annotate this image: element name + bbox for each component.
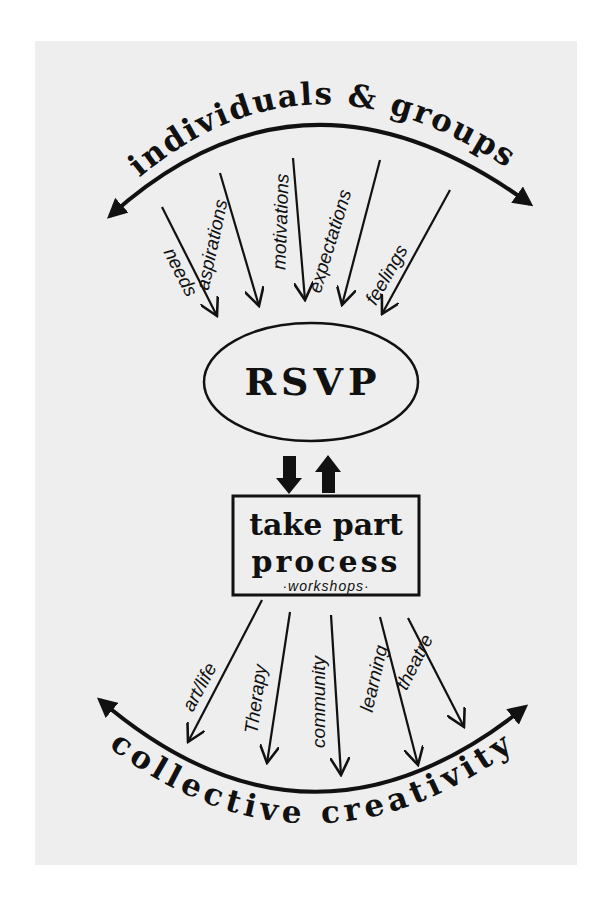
- process-box-line2: process: [252, 544, 401, 579]
- link-arrows: [276, 455, 341, 494]
- output-arrow-theatre: theatre: [391, 618, 464, 727]
- top-arc-label: individuals & groups: [121, 75, 524, 183]
- diagram-canvas: individuals & groups needsaspirationsmot…: [0, 0, 589, 902]
- process-box: take part process ·workshops·: [233, 496, 419, 595]
- input-arrow-aspirations: aspirations: [192, 173, 259, 306]
- arrow-icon: [267, 612, 290, 763]
- arrow-icon: [380, 617, 418, 765]
- up-arrow-icon: [315, 455, 341, 493]
- output-arrow-label: art/life: [178, 659, 221, 715]
- input-arrow-motivations: motivations: [268, 158, 305, 300]
- process-box-line3: ·workshops·: [282, 578, 369, 594]
- output-arrow-therapy: Therapy: [240, 612, 290, 763]
- down-arrow-icon: [276, 456, 302, 494]
- center-node: RSVP: [204, 323, 418, 441]
- top-arc-group: individuals & groups: [110, 75, 530, 216]
- output-arrow-label: Therapy: [240, 662, 271, 735]
- arrow-icon: [331, 615, 341, 775]
- arrow-icon: [220, 173, 259, 306]
- process-box-line1: take part: [249, 507, 403, 542]
- arrow-icon: [293, 158, 305, 300]
- output-arrows: art/lifeTherapycommunitylearningtheatre: [178, 600, 464, 775]
- rsvp-label: RSVP: [244, 359, 381, 404]
- input-arrow-feelings: feelings: [361, 190, 450, 314]
- input-arrow-label: motivations: [268, 173, 292, 270]
- output-arrow-label: learning: [356, 643, 392, 714]
- input-arrow-label: aspirations: [192, 197, 232, 292]
- output-arrow-community: community: [308, 615, 341, 775]
- output-arrow-label: community: [308, 655, 329, 748]
- input-arrows: needsaspirationsmotivationsexpectationsf…: [160, 158, 450, 316]
